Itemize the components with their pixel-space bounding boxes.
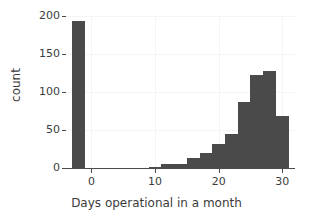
y-tick-mark [62, 16, 66, 17]
bar-series [66, 16, 295, 168]
y-axis-label: count [9, 30, 23, 140]
histogram-bar [72, 21, 85, 168]
y-tick-label: 50 [20, 124, 60, 135]
histogram-bar [200, 153, 213, 168]
y-tick-label: 200 [20, 10, 60, 21]
x-axis-line [66, 168, 295, 169]
x-tick-label: 30 [267, 175, 297, 188]
histogram-bar [187, 158, 200, 168]
x-axis-label: Days operational in a month [0, 196, 313, 210]
histogram-bar [250, 75, 263, 168]
x-tick-mark [219, 169, 220, 173]
y-tick-mark [62, 92, 66, 93]
x-tick-label: 20 [204, 175, 234, 188]
histogram-bar [238, 102, 251, 168]
x-tick-label: 0 [76, 175, 106, 188]
x-tick-label: 10 [140, 175, 170, 188]
y-tick-mark [62, 130, 66, 131]
histogram-figure: 0102030 050100150200 Days operational in… [0, 0, 313, 222]
histogram-bar [212, 144, 225, 168]
plot-panel [66, 16, 295, 168]
histogram-bar [263, 71, 276, 168]
x-tick-mark [91, 169, 92, 173]
y-tick-label: 100 [20, 86, 60, 97]
y-tick-label: 0 [20, 162, 60, 173]
y-tick-mark [62, 54, 66, 55]
y-tick-mark [62, 168, 66, 169]
histogram-bar [225, 134, 238, 168]
histogram-bar [276, 116, 289, 168]
x-tick-mark [282, 169, 283, 173]
x-tick-mark [155, 169, 156, 173]
y-tick-label: 150 [20, 48, 60, 59]
